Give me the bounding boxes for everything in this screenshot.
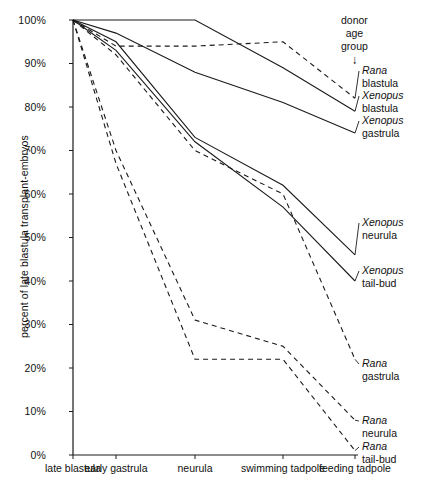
series-line-rana-neurula — [73, 20, 355, 420]
label-pointer — [355, 359, 359, 364]
series-line-rana-blastula — [73, 20, 355, 98]
label-pointer — [355, 121, 359, 133]
label-pointer — [355, 96, 359, 111]
series-line-xenopus-gastrula — [73, 20, 355, 133]
label-pointer — [355, 271, 359, 281]
chart-figure: percent of late blastula transplant-embr… — [0, 0, 421, 499]
label-pointer — [355, 223, 359, 255]
label-pointer — [355, 420, 359, 421]
plot-area — [0, 0, 421, 499]
label-pointer — [355, 71, 359, 98]
label-pointer — [355, 447, 359, 451]
series-lines-group — [73, 20, 355, 451]
label-pointer-group — [355, 71, 359, 451]
series-line-xenopus-neurula — [73, 20, 355, 255]
series-line-xenopus-tail-bud — [73, 20, 355, 281]
series-line-rana-tail-bud — [73, 20, 355, 451]
series-line-rana-gastrula — [73, 20, 355, 359]
